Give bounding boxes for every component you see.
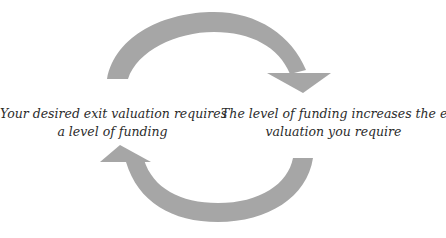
cycle-node-left: Your desired exit valuation requires a l… [0,105,225,141]
cycle-node-right: The level of funding increases the exit … [221,105,446,141]
node-right-line2: valuation you require [221,123,446,141]
node-left-line2: a level of funding [0,123,225,141]
funding-cycle-diagram: Your desired exit valuation requires a l… [0,0,446,238]
node-right-line1: The level of funding increases the exit [221,105,446,123]
bottom-curved-arrow-icon [100,145,313,222]
node-left-line1: Your desired exit valuation requires [0,105,225,123]
top-curved-arrow-icon [107,12,331,93]
